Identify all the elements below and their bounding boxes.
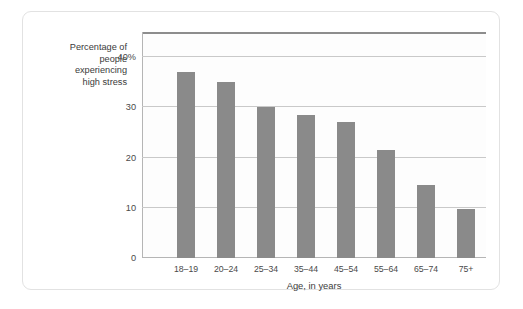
plot-top-border <box>142 32 486 34</box>
figure-card: Percentage of people experiencing high s… <box>22 11 500 290</box>
bar <box>337 122 355 258</box>
y-tick-label: 30 <box>126 102 136 112</box>
x-tick-label: 65–74 <box>414 264 438 274</box>
x-tick-label: 25–34 <box>254 264 278 274</box>
x-axis-title: Age, in years <box>142 280 486 291</box>
x-tick-label: 75+ <box>459 264 474 274</box>
x-tick-label: 35–44 <box>294 264 318 274</box>
y-tick-label: 10 <box>126 203 136 213</box>
bar <box>257 107 275 258</box>
y-axis-title: Percentage of people experiencing high s… <box>31 42 127 88</box>
gridline <box>142 56 486 57</box>
bar <box>417 185 435 258</box>
bar <box>177 72 195 258</box>
x-tick-label: 45–54 <box>334 264 358 274</box>
bar <box>217 82 235 258</box>
x-tick-label: 18–19 <box>174 264 198 274</box>
y-tick-label: 0 <box>131 253 136 263</box>
bar <box>297 115 315 258</box>
bar <box>377 150 395 258</box>
x-tick-label: 20–24 <box>214 264 238 274</box>
y-tick-label: 20 <box>126 153 136 163</box>
plot-area: 010203040% 18–1920–2425–3435–4445–5455–6… <box>142 32 486 258</box>
x-tick-label: 55–64 <box>374 264 398 274</box>
bar <box>457 209 475 258</box>
y-tick-label: 40% <box>118 52 136 62</box>
y-axis-line <box>142 32 143 258</box>
